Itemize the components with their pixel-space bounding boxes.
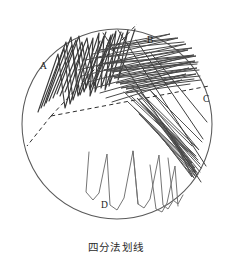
quadrant-label-c: C: [203, 95, 210, 105]
figure-caption: 四分法划线: [0, 239, 232, 254]
quadrant-label-a: A: [40, 62, 47, 72]
streak-diagram-svg: [0, 0, 232, 265]
figure-four-quadrant-streak: A B C D 四分法划线: [0, 0, 232, 265]
quadrant-label-b: B: [147, 36, 154, 46]
quadrant-label-d: D: [101, 201, 108, 211]
